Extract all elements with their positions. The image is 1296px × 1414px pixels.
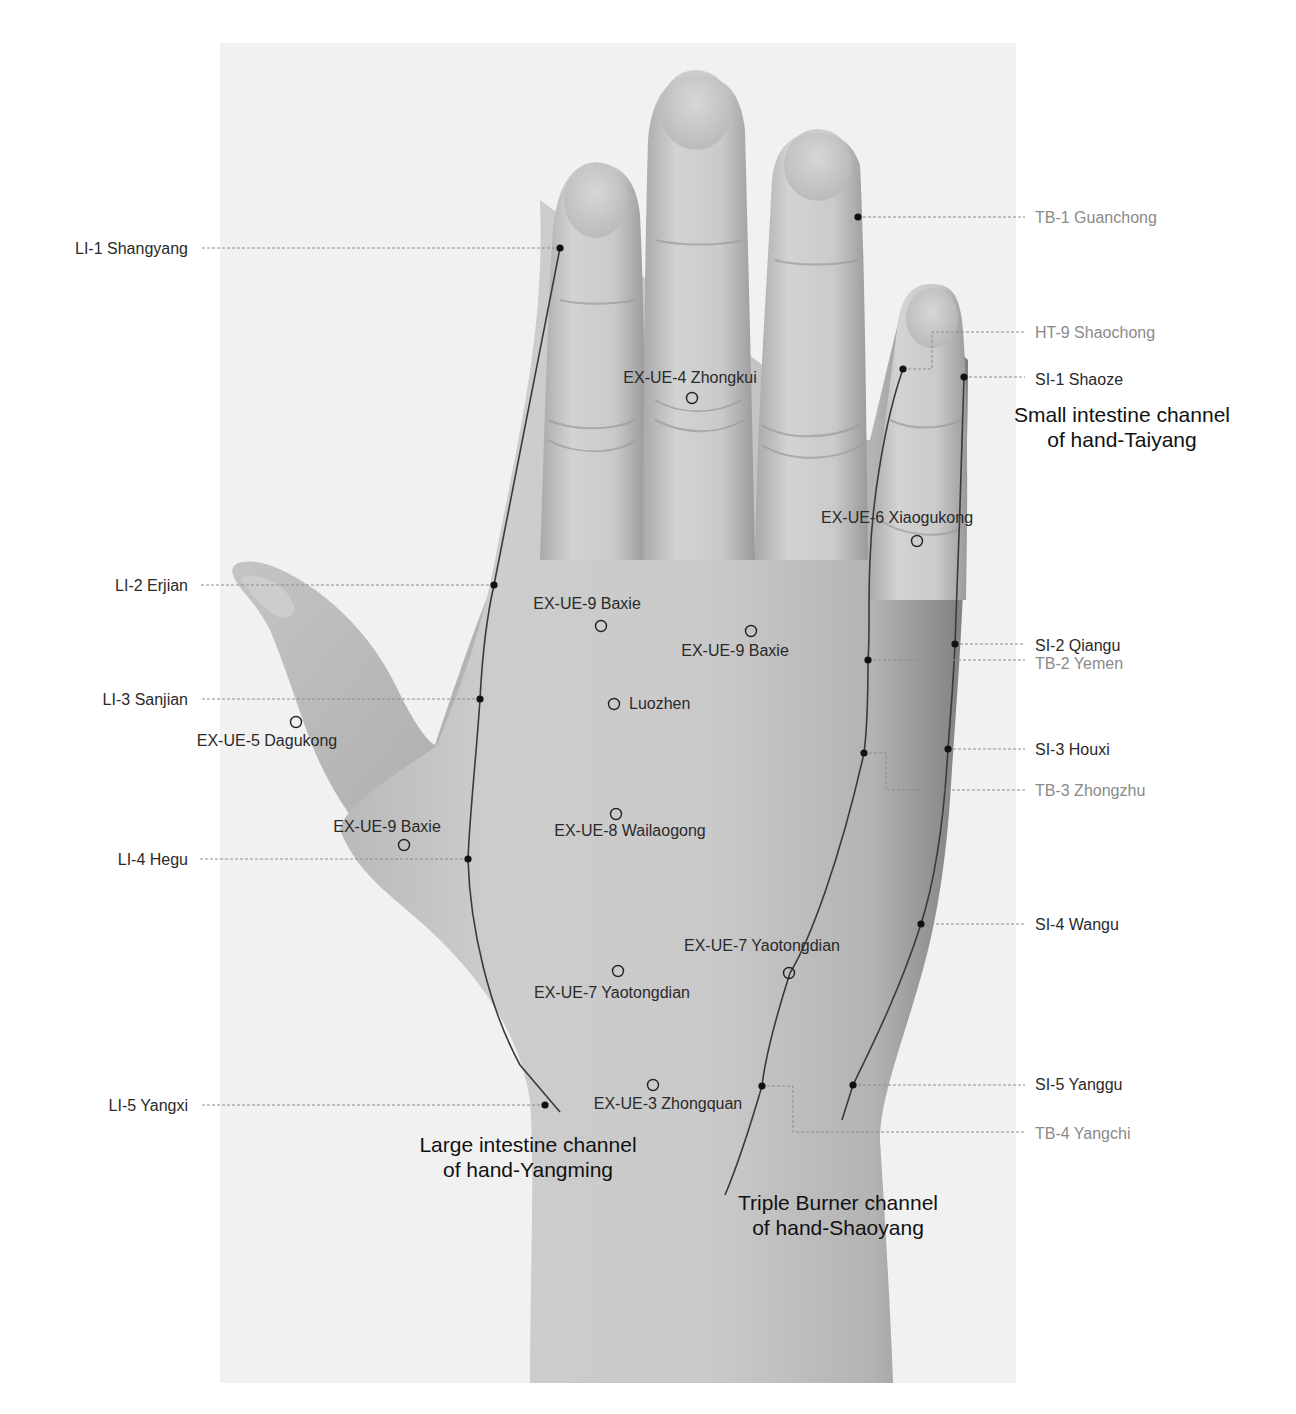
si-1-label: SI-1 Shaoze [1035, 371, 1123, 388]
ex-ue-7-b-label: EX-UE-7 Yaotongdian [534, 984, 690, 1001]
ex-ue-3-label: EX-UE-3 Zhongquan [594, 1095, 743, 1112]
li-2-point-marker [490, 581, 497, 588]
ex-ue-9-c-label: EX-UE-9 Baxie [333, 818, 441, 835]
li-1-point-marker [556, 244, 563, 251]
tb-1-label: TB-1 Guanchong [1035, 209, 1157, 226]
li-3-label: LI-3 Sanjian [103, 691, 188, 708]
li-4-label: LI-4 Hegu [118, 851, 188, 868]
li-4-point-marker [464, 855, 471, 862]
li-2-label: LI-2 Erjian [115, 577, 188, 594]
si-4-point-marker [917, 920, 924, 927]
luozhen-label: Luozhen [629, 695, 690, 712]
si-5-label: SI-5 Yanggu [1035, 1076, 1122, 1093]
large-intestine-channel-title: of hand-Yangming [443, 1158, 613, 1181]
si-3-point-marker [944, 745, 951, 752]
ring-nail [784, 129, 852, 201]
ht-9-point-marker [899, 365, 906, 372]
small-intestine-channel-title: of hand-Taiyang [1047, 428, 1196, 451]
tb-4-label: TB-4 Yangchi [1035, 1125, 1130, 1142]
acupoint-diagram: LI-1 ShangyangLI-2 ErjianLI-3 SanjianLI-… [0, 0, 1296, 1414]
index-nail [564, 162, 628, 238]
si-5-point-marker [849, 1081, 856, 1088]
tb-2-point-marker [864, 656, 871, 663]
little-nail [906, 288, 958, 348]
tb-1-point-marker [854, 213, 861, 220]
ex-ue-7-a-label: EX-UE-7 Yaotongdian [684, 937, 840, 954]
si-4-label: SI-4 Wangu [1035, 916, 1119, 933]
si-2-point-marker [951, 640, 958, 647]
tb-3-label: TB-3 Zhongzhu [1035, 782, 1145, 799]
ht-9-label: HT-9 Shaochong [1035, 324, 1155, 341]
small-intestine-channel-title: Small intestine channel [1014, 403, 1230, 426]
si-1-point-marker [960, 373, 967, 380]
tb-2-label: TB-2 Yemen [1035, 655, 1123, 672]
li-5-label: LI-5 Yangxi [109, 1097, 188, 1114]
triple-burner-channel-title: of hand-Shaoyang [752, 1216, 924, 1239]
triple-burner-channel-title: Triple Burner channel [738, 1191, 938, 1214]
ex-ue-5-label: EX-UE-5 Dagukong [197, 732, 338, 749]
ex-ue-9-a-label: EX-UE-9 Baxie [533, 595, 641, 612]
si-2-label: SI-2 Qiangu [1035, 637, 1120, 654]
ex-ue-6-label: EX-UE-6 Xiaogukong [821, 509, 973, 526]
large-intestine-channel-title: Large intestine channel [419, 1133, 636, 1156]
ex-ue-8-label: EX-UE-8 Wailaogong [554, 822, 705, 839]
hand-illustration: LI-1 ShangyangLI-2 ErjianLI-3 SanjianLI-… [0, 0, 1296, 1414]
li-3-point-marker [476, 695, 483, 702]
li-5-point-marker [541, 1101, 548, 1108]
li-1-label: LI-1 Shangyang [75, 240, 188, 257]
ex-ue-4-label: EX-UE-4 Zhongkui [623, 369, 756, 386]
tb-4-point-marker [758, 1082, 765, 1089]
si-3-label: SI-3 Houxi [1035, 741, 1110, 758]
tb-3-point-marker [860, 749, 867, 756]
ex-ue-9-b-label: EX-UE-9 Baxie [681, 642, 789, 659]
middle-nail [660, 70, 732, 150]
